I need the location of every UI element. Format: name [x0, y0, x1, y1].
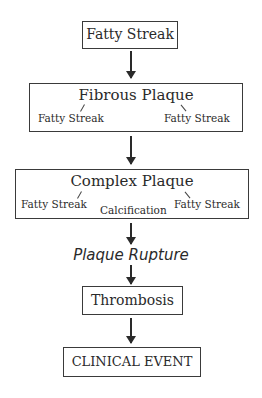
- arrow-down-icon: [130, 318, 132, 343]
- node-clinical-event-label: CLINICAL EVENT: [64, 354, 200, 369]
- node-clinical-event: CLINICAL EVENT: [63, 347, 201, 377]
- node-plaque-rupture: Plaque Rupture: [0, 246, 262, 264]
- fibrous-sub-right: Fatty Streak: [164, 112, 230, 124]
- arrow-down-icon: [130, 223, 132, 244]
- node-complex-plaque-label: Complex Plaque: [16, 172, 248, 190]
- node-fatty-streak-label: Fatty Streak: [83, 26, 177, 42]
- arrow-down-icon: [130, 265, 132, 284]
- arrow-down-icon: [130, 136, 132, 164]
- node-fibrous-plaque-label: Fibrous Plaque: [30, 86, 242, 104]
- connector-line: [80, 104, 85, 111]
- complex-sub-left: Fatty Streak: [21, 198, 87, 210]
- fibrous-sub-left: Fatty Streak: [38, 112, 104, 124]
- node-complex-plaque: Complex Plaque Fatty Streak Calcificatio…: [15, 169, 249, 219]
- node-fatty-streak: Fatty Streak: [82, 21, 178, 49]
- arrow-down-icon: [130, 51, 132, 78]
- node-fibrous-plaque: Fibrous Plaque Fatty Streak Fatty Streak: [29, 83, 243, 132]
- connector-line: [181, 105, 187, 112]
- node-thrombosis-label: Thrombosis: [83, 292, 182, 308]
- complex-sub-center: Calcification: [100, 204, 167, 216]
- node-thrombosis: Thrombosis: [82, 286, 183, 315]
- complex-sub-right: Fatty Streak: [174, 198, 240, 210]
